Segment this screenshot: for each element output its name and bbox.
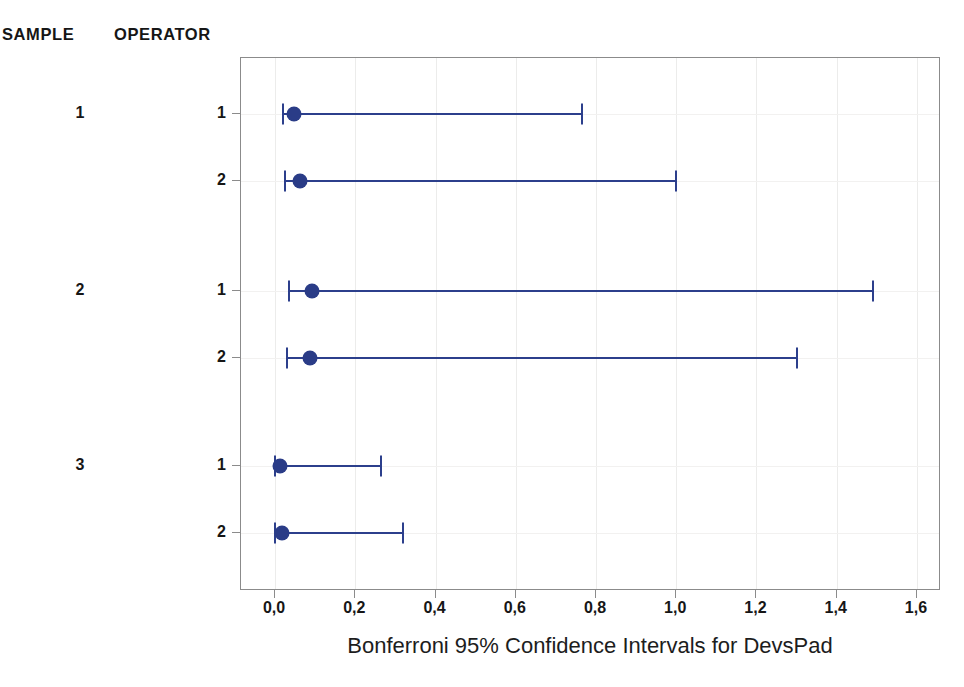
operator-label: 2 (196, 348, 226, 366)
y-tick-mark (232, 113, 240, 114)
operator-label: 2 (196, 171, 226, 189)
interval-upper-cap (402, 523, 404, 544)
interval-point-estimate (272, 459, 287, 474)
gridline-vertical (436, 58, 437, 589)
y-tick-mark (232, 290, 240, 291)
interval-upper-cap (796, 348, 798, 369)
x-tick-mark (755, 590, 756, 598)
x-tick-label: 0,2 (324, 599, 384, 617)
sample-label: 2 (60, 281, 100, 299)
x-tick-mark (354, 590, 355, 598)
column-header-sample: SAMPLE (2, 25, 74, 44)
y-tick-mark (232, 465, 240, 466)
operator-label: 2 (196, 523, 226, 541)
interval-point-estimate (302, 351, 317, 366)
x-tick-label: 0,4 (405, 599, 465, 617)
interval-lower-cap (284, 171, 286, 192)
interval-point-estimate (293, 174, 308, 189)
gridline-vertical (355, 58, 356, 589)
interval-line (275, 465, 381, 467)
interval-point-estimate (286, 107, 301, 122)
x-tick-label: 0,6 (485, 599, 545, 617)
interval-line (283, 113, 582, 115)
y-tick-mark (232, 180, 240, 181)
x-axis-title: Bonferroni 95% Confidence Intervals for … (240, 633, 940, 659)
operator-label: 1 (196, 456, 226, 474)
x-tick-label: 1,4 (806, 599, 866, 617)
sample-label: 3 (60, 456, 100, 474)
x-tick-mark (675, 590, 676, 598)
sample-label: 1 (60, 104, 100, 122)
gridline-vertical (917, 58, 918, 589)
x-tick-mark (836, 590, 837, 598)
interval-point-estimate (274, 526, 289, 541)
interval-lower-cap (282, 104, 284, 125)
x-tick-mark (515, 590, 516, 598)
interval-upper-cap (675, 171, 677, 192)
operator-label: 1 (196, 104, 226, 122)
x-tick-label: 1,0 (645, 599, 705, 617)
x-tick-mark (916, 590, 917, 598)
x-tick-label: 0,0 (244, 599, 304, 617)
interval-lower-cap (286, 348, 288, 369)
interval-upper-cap (380, 456, 382, 477)
y-tick-mark (232, 532, 240, 533)
interval-line (285, 180, 676, 182)
x-tick-mark (435, 590, 436, 598)
x-tick-mark (274, 590, 275, 598)
gridline-vertical (275, 58, 276, 589)
x-tick-label: 0,8 (565, 599, 625, 617)
interval-line (287, 357, 796, 359)
interval-line (275, 532, 403, 534)
gridline-vertical (676, 58, 677, 589)
x-tick-label: 1,2 (725, 599, 785, 617)
gridline-vertical (837, 58, 838, 589)
interval-line (289, 290, 873, 292)
operator-label: 1 (196, 281, 226, 299)
gridline-vertical (756, 58, 757, 589)
confidence-interval-chart: SAMPLE OPERATOR 123 121212 0,00,20,40,60… (0, 0, 964, 687)
interval-point-estimate (305, 284, 320, 299)
gridline-vertical (596, 58, 597, 589)
interval-upper-cap (872, 281, 874, 302)
x-tick-mark (595, 590, 596, 598)
x-tick-label: 1,6 (886, 599, 946, 617)
plot-area (240, 57, 940, 590)
gridline-vertical (516, 58, 517, 589)
interval-lower-cap (288, 281, 290, 302)
interval-upper-cap (581, 104, 583, 125)
y-tick-mark (232, 357, 240, 358)
column-header-operator: OPERATOR (114, 25, 211, 44)
